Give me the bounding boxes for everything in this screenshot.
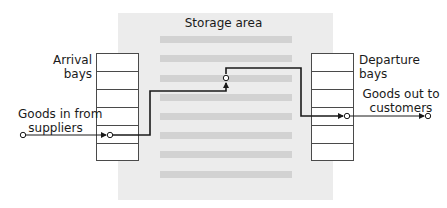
departure-node [344,113,349,118]
supplier-node [20,132,25,137]
customer-node [425,113,430,118]
arrival-node [107,132,112,137]
flow-path [0,0,447,208]
storage-node [223,75,228,80]
